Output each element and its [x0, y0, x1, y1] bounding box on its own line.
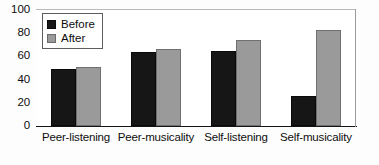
y-axis: 020406080100 — [0, 0, 33, 165]
y-tick-label: 80 — [17, 27, 30, 39]
y-tick-label: 20 — [17, 97, 30, 109]
y-tick-label: 100 — [11, 4, 30, 16]
x-axis-line — [36, 126, 357, 127]
bar-after — [76, 67, 101, 126]
bar-before — [131, 52, 156, 126]
after-swatch-icon — [47, 34, 56, 43]
chart-legend: Before After — [42, 13, 103, 49]
x-category-label: Peer-musicality — [116, 131, 196, 144]
y-tick-label: 0 — [24, 120, 30, 132]
bar-chart-figure: 020406080100 Before After Peer-listening… — [0, 0, 379, 165]
bar-before — [291, 96, 316, 126]
legend-label-before: Before — [61, 18, 95, 30]
x-category-label: Self-listening — [196, 131, 276, 144]
bar-before — [211, 51, 236, 126]
bar-group — [291, 10, 341, 126]
y-tick-label: 40 — [17, 74, 30, 86]
bar-group — [131, 10, 181, 126]
bar-before — [51, 69, 76, 126]
bar-group — [211, 10, 261, 126]
x-category-label: Peer-listening — [36, 131, 116, 144]
bar-after — [316, 30, 341, 126]
x-category-label: Self-musicality — [276, 131, 356, 144]
bar-after — [156, 49, 181, 126]
x-axis-labels: Peer-listeningPeer-musicalitySelf-listen… — [36, 131, 356, 151]
before-swatch-icon — [47, 20, 56, 29]
legend-item-before: Before — [47, 17, 95, 31]
legend-label-after: After — [61, 32, 85, 44]
bar-after — [236, 40, 261, 126]
y-tick-label: 60 — [17, 50, 30, 62]
legend-item-after: After — [47, 31, 95, 45]
